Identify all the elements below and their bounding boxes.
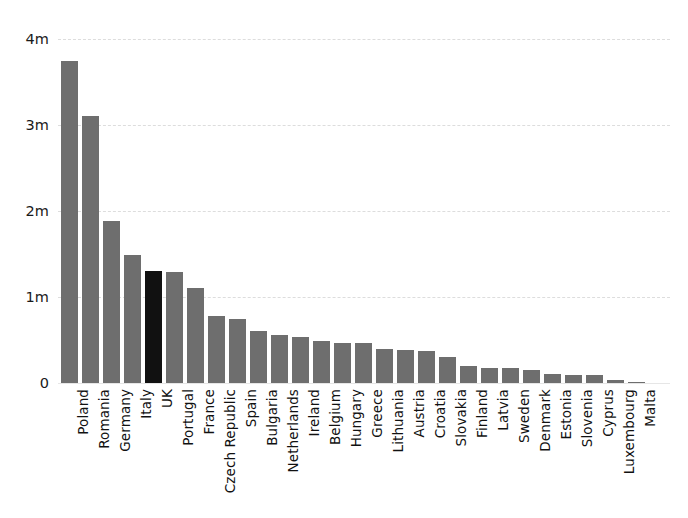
x-tick-label-cyprus: Cyprus	[600, 389, 616, 437]
x-tick-label-netherlands: Netherlands	[285, 389, 301, 472]
bar-portugal	[166, 272, 183, 383]
x-tick-label-austria: Austria	[411, 389, 427, 437]
x-tick-label-spain: Spain	[243, 389, 259, 427]
x-tick-label-belgium: Belgium	[327, 389, 343, 445]
bar-uk	[145, 271, 162, 383]
bar-austria	[397, 350, 414, 383]
x-tick-label-denmark: Denmark	[537, 389, 553, 452]
x-tick-label-sweden: Sweden	[516, 389, 532, 443]
x-tick-label-ireland: Ireland	[306, 389, 322, 436]
x-tick-label-slovenia: Slovenia	[579, 389, 595, 447]
bar-finland	[460, 366, 477, 383]
x-tick-label-lithuania: Lithuania	[390, 389, 406, 452]
x-tick-label-uk: UK	[159, 389, 175, 408]
x-tick-label-croatia: Croatia	[432, 389, 448, 438]
bar-poland	[61, 61, 78, 383]
x-tick-label-bulgaria: Bulgaria	[264, 389, 280, 446]
x-tick-label-hungary: Hungary	[348, 389, 364, 447]
x-tick-label-poland: Poland	[75, 389, 91, 435]
bar-sweden	[502, 368, 519, 383]
y-tick-label: 1m	[25, 289, 49, 305]
bar-france	[187, 288, 204, 383]
x-tick-label-romania: Romania	[96, 389, 112, 449]
x-tick-label-italy: Italy	[138, 389, 154, 419]
bar-cyprus	[586, 375, 603, 383]
bar-lithuania	[376, 349, 393, 383]
bar-estonia	[544, 374, 561, 383]
bar-italy	[124, 255, 141, 383]
x-tick-label-estonia: Estonia	[558, 389, 574, 439]
bar-latvia	[481, 368, 498, 383]
bar-chart: 01m2m3m4m PolandRomaniaGermanyItalyUKPor…	[0, 0, 688, 518]
x-tick-label-france: France	[201, 389, 217, 435]
y-tick-label: 3m	[25, 117, 49, 133]
x-axis: PolandRomaniaGermanyItalyUKPortugalFranc…	[58, 389, 670, 518]
bar-luxembourg	[607, 380, 624, 383]
bar-ireland	[292, 337, 309, 383]
bar-denmark	[523, 370, 540, 383]
x-tick-label-malta: Malta	[642, 389, 658, 427]
y-tick-label: 2m	[25, 203, 49, 219]
x-tick-label-latvia: Latvia	[495, 389, 511, 431]
bar-netherlands	[271, 335, 288, 383]
y-axis: 01m2m3m4m	[0, 0, 58, 518]
x-tick-label-germany: Germany	[117, 389, 133, 452]
bar-romania	[82, 116, 99, 383]
x-tick-label-finland: Finland	[474, 389, 490, 438]
bar-greece	[355, 343, 372, 383]
x-tick-label-czech-republic: Czech Republic	[222, 389, 238, 493]
bar-croatia	[418, 351, 435, 383]
bars	[58, 39, 670, 383]
bar-slovakia	[439, 357, 456, 383]
bar-hungary	[334, 343, 351, 383]
bar-bulgaria	[250, 331, 267, 383]
bar-slovenia	[565, 375, 582, 383]
x-tick-label-slovakia: Slovakia	[453, 389, 469, 446]
bar-spain	[229, 319, 246, 383]
gridline-0	[58, 383, 670, 384]
y-tick-label: 4m	[25, 31, 49, 47]
x-tick-label-luxembourg: Luxembourg	[621, 389, 637, 474]
x-tick-label-portugal: Portugal	[180, 389, 196, 446]
bar-belgium	[313, 341, 330, 383]
plot-area	[58, 39, 670, 383]
bar-czech-republic	[208, 316, 225, 383]
bar-germany	[103, 221, 120, 383]
y-tick-label: 0	[40, 375, 49, 391]
x-tick-label-greece: Greece	[369, 389, 385, 438]
bar-malta	[628, 382, 645, 383]
